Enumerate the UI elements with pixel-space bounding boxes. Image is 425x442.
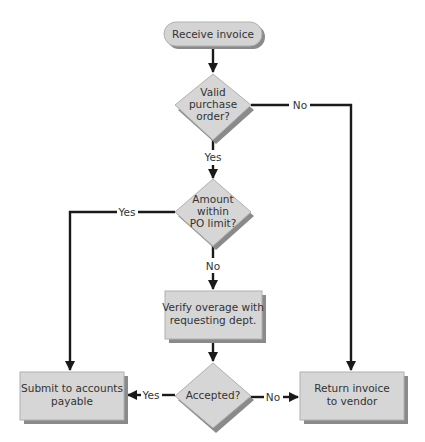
node-label-line: purchase bbox=[189, 98, 237, 110]
node-label-line: Submit to accounts bbox=[21, 382, 123, 394]
node-submit-to-accounts-payable: Submit to accounts payable bbox=[20, 372, 128, 424]
node-verify-overage: Verify overage with requesting dept. bbox=[162, 291, 266, 343]
node-receive-invoice: Receive invoice bbox=[164, 22, 265, 49]
node-label-line: PO limit? bbox=[190, 217, 237, 229]
node-label-line: payable bbox=[51, 395, 93, 407]
node-return-invoice-to-vendor: Return invoice to vendor bbox=[300, 372, 408, 424]
edge-label-within-limit-no: No bbox=[206, 260, 220, 272]
edge-label-valid-po-yes: Yes bbox=[204, 151, 222, 163]
node-label-line: Amount bbox=[192, 193, 233, 205]
node-label-line: order? bbox=[196, 110, 230, 122]
node-valid-purchase-order: Valid purchase order? bbox=[175, 74, 254, 144]
node-label-line: to vendor bbox=[327, 395, 378, 407]
node-amount-within-po-limit: Amount within PO limit? bbox=[175, 179, 254, 250]
node-label: Receive invoice bbox=[172, 28, 254, 40]
edge-label-accepted-no: No bbox=[266, 391, 280, 403]
node-accepted: Accepted? bbox=[175, 363, 254, 433]
edge-label-within-limit-yes: Yes bbox=[118, 206, 136, 218]
flowchart: Yes No Yes No Yes No Receive invoice V bbox=[0, 0, 425, 442]
edge-label-valid-po-no: No bbox=[293, 99, 307, 111]
edge-valid-po-no-b bbox=[310, 105, 351, 370]
node-label-line: Return invoice bbox=[314, 382, 390, 394]
node-label-line: Verify overage with bbox=[162, 301, 264, 313]
node-label-line: Accepted? bbox=[186, 389, 240, 401]
node-label-line: requesting dept. bbox=[170, 314, 257, 326]
edge-label-accepted-yes: Yes bbox=[142, 389, 160, 401]
node-label-line: Valid bbox=[200, 86, 225, 98]
edge-within-limit-yes-b bbox=[70, 212, 117, 370]
node-label-line: within bbox=[197, 205, 229, 217]
